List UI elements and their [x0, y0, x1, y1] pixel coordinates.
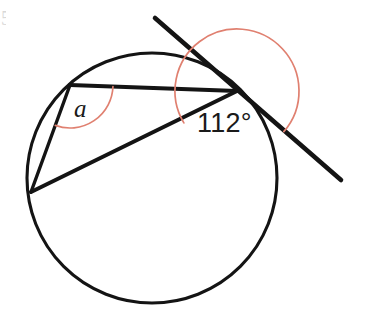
geometry-canvas	[0, 0, 370, 315]
angle-label-a: a	[74, 96, 87, 121]
chord-top	[70, 85, 237, 91]
geometry-figure: 5 a 112°	[0, 0, 370, 315]
tangent-line	[155, 18, 341, 180]
angle-label-112-degrees: 112°	[197, 110, 252, 137]
